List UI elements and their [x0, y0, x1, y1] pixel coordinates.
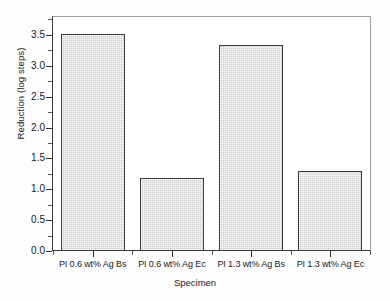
bar	[140, 178, 204, 251]
bar	[219, 45, 283, 251]
x-tick-minor	[132, 251, 133, 255]
y-tick-major	[46, 251, 52, 252]
x-tick-minor	[212, 251, 213, 255]
bars-group	[53, 17, 370, 251]
bar-chart-figure: Reduction (log steps) 0.00.51.01.52.02.5…	[0, 0, 390, 301]
x-category-label: PI 1.3 wt% Ag Ec	[291, 259, 370, 269]
y-tick-label: 3.0	[5, 60, 45, 71]
y-tick-label: 1.0	[5, 183, 45, 194]
x-axis-title: Specimen	[0, 277, 390, 288]
x-category-label: PI 0.6 wt% Ag Ec	[132, 259, 211, 269]
x-tick-minor	[370, 251, 371, 255]
x-tick-major	[172, 251, 173, 257]
y-tick-label: 3.5	[5, 29, 45, 40]
x-tick-minor	[291, 251, 292, 255]
y-tick-label: 0.5	[5, 214, 45, 225]
y-tick-label: 2.0	[5, 122, 45, 133]
x-tick-major	[251, 251, 252, 257]
y-tick-label: 2.5	[5, 91, 45, 102]
x-tick-minor	[53, 251, 54, 255]
x-category-label: PI 0.6 wt% Ag Bs	[53, 259, 132, 269]
bar	[298, 171, 362, 251]
x-category-label: PI 1.3 wt% Ag Bs	[212, 259, 291, 269]
x-tick-major	[93, 251, 94, 257]
y-tick-label: 1.5	[5, 152, 45, 163]
y-tick-label: 0.0	[5, 245, 45, 256]
x-tick-major	[330, 251, 331, 257]
bar	[61, 34, 125, 251]
